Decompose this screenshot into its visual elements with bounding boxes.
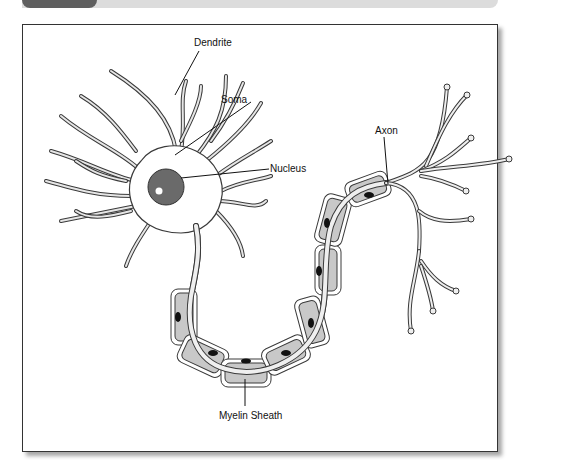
nucleus-label: Nucleus [270, 163, 306, 174]
dendrite-label: Dendrite [194, 37, 232, 48]
myelin-sheath-label: Myelin Sheath [219, 410, 282, 421]
nucleolus [156, 188, 163, 195]
axon-terminals [386, 84, 512, 334]
diagram-frame: .d { fill: none; stroke: #3a3a3a; stroke… [22, 24, 498, 452]
dendrite-leader-line [175, 51, 199, 95]
soma-label: Soma [221, 94, 247, 105]
neuron-diagram: .d { fill: none; stroke: #3a3a3a; stroke… [1, 1, 561, 460]
axon-label: Axon [375, 125, 398, 136]
nucleus [148, 169, 184, 205]
